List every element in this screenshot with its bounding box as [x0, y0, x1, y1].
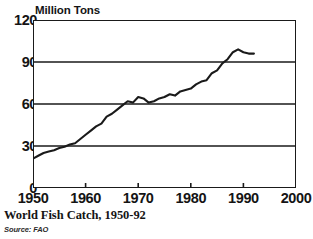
y-axis-title: Million Tons: [35, 4, 100, 17]
caption-title: World Fish Catch, 1950-92: [4, 208, 146, 223]
x-tick-label: 1990: [213, 190, 273, 206]
fish-catch-chart-figure: Million Tons 0306090120 1950196019701980…: [0, 0, 313, 239]
y-tick-label: 120: [0, 13, 37, 27]
gridlines: [33, 62, 296, 146]
y-tick-label: 30: [0, 139, 37, 153]
x-tick-label: 1950: [3, 190, 63, 206]
x-tick-label: 2000: [266, 190, 313, 206]
plot-area: [33, 20, 296, 188]
plot-svg: [33, 20, 296, 188]
x-tick-label: 1980: [161, 190, 221, 206]
y-tick-label: 90: [0, 55, 37, 69]
x-tick-label: 1970: [108, 190, 168, 206]
y-tick-label: 60: [0, 97, 37, 111]
x-tick-label: 1960: [56, 190, 116, 206]
caption-source: Source: FAO: [4, 225, 48, 234]
x-axis-tick-marks: [86, 183, 244, 188]
